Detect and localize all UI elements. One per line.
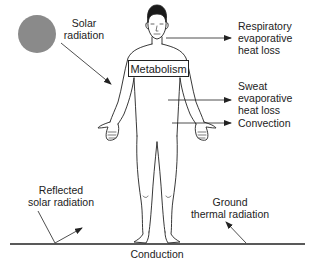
solar-radiation-label: Solar radiation xyxy=(62,17,106,41)
sweat-label-line-2: evaporative xyxy=(238,92,292,104)
sweat-label-line-1: Sweat xyxy=(238,80,292,92)
solar-radiation-label-line-1: Solar xyxy=(62,17,106,29)
ground-thermal-label-line-2: thermal radiation xyxy=(180,208,280,220)
respiratory-label-line-3: heat loss xyxy=(238,44,292,56)
ground-thermal-label-line-1: Ground xyxy=(180,196,280,208)
metabolism-label: Metabolism xyxy=(130,63,186,75)
ground-thermal-label: Ground thermal radiation xyxy=(180,196,280,220)
sun-icon xyxy=(18,15,56,53)
heat-exchange-diagram: Solar radiation Metabolism Respiratory e… xyxy=(0,0,314,269)
convection-label-text: Convection xyxy=(238,117,291,129)
solar-radiation-arrow xyxy=(61,43,111,84)
respiratory-label-line-2: evaporative xyxy=(238,32,292,44)
conduction-label: Conduction xyxy=(117,248,197,260)
reflected-label-line-2: solar radiation xyxy=(18,196,104,208)
solar-radiation-label-line-2: radiation xyxy=(62,29,106,41)
reflected-label-line-1: Reflected xyxy=(18,184,104,196)
reflected-solar-arrow xyxy=(38,211,82,243)
reflected-solar-label: Reflected solar radiation xyxy=(18,184,104,208)
metabolism-box: Metabolism xyxy=(128,60,189,77)
convection-label: Convection xyxy=(238,117,291,129)
ground-thermal-arrow xyxy=(226,222,246,243)
conduction-label-text: Conduction xyxy=(117,248,197,260)
respiratory-label-line-1: Respiratory xyxy=(238,20,292,32)
sweat-label-line-3: heat loss xyxy=(238,104,292,116)
sweat-label: Sweat evaporative heat loss xyxy=(238,80,292,116)
respiratory-label: Respiratory evaporative heat loss xyxy=(238,20,292,56)
